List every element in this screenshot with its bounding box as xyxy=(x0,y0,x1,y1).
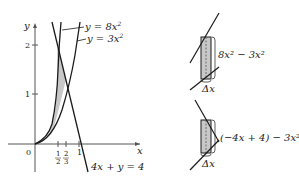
x-tick-label-two-thirds: 2 3 xyxy=(63,150,69,166)
svg-text:2: 2 xyxy=(56,158,60,166)
label-curve-3x2: y = 3x2 xyxy=(86,32,123,44)
y-tick-label-2: 2 xyxy=(25,41,30,50)
x-tick-label-half: 1 2 xyxy=(55,150,61,166)
y-axis-arrow-icon xyxy=(33,23,37,28)
svg-text:1: 1 xyxy=(56,150,60,158)
y-axis-label: y xyxy=(23,20,30,31)
svg-text:2: 2 xyxy=(64,150,68,158)
strip-bottom: (−4x + 4) − 3x² Δx xyxy=(190,100,299,170)
strip-top: 8x² − 3x² Δx xyxy=(190,13,265,94)
area-between-curves-diagram: y x 0 1 2 1 2 2 3 1 y = 8x2 y = 3x2 4x +… xyxy=(0,0,299,182)
x-axis-label: x xyxy=(137,145,143,156)
label-line: 4x + y = 4 xyxy=(90,161,145,172)
x-tick-label-1: 1 xyxy=(77,148,82,157)
curve-8x2 xyxy=(35,22,61,144)
origin-label: 0 xyxy=(26,148,31,157)
svg-text:3: 3 xyxy=(64,158,68,166)
leader-8x2 xyxy=(62,27,84,30)
main-graph: y x 0 1 2 1 2 2 3 1 y = 8x2 y = 3x2 4x +… xyxy=(8,20,145,172)
leader-3x2 xyxy=(77,39,86,41)
width-label-bottom: Δx xyxy=(201,158,215,169)
y-tick-label-1: 1 xyxy=(25,90,30,99)
label-curve-8x2: y = 8x2 xyxy=(84,20,121,32)
height-brace-bottom xyxy=(212,120,215,153)
height-label-bottom: (−4x + 4) − 3x² xyxy=(220,132,299,143)
height-label-top: 8x² − 3x² xyxy=(218,49,265,60)
width-label-top: Δx xyxy=(201,83,215,94)
